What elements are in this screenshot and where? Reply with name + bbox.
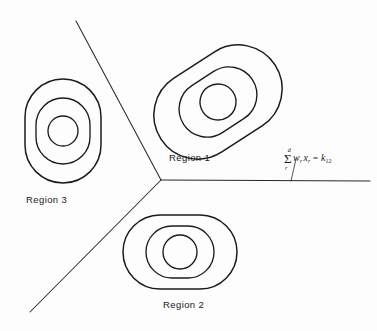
weight-symbol: w	[293, 152, 300, 163]
summation-block: d Σ r	[284, 147, 292, 171]
region-3-label: Region 3	[26, 194, 67, 205]
constant-subscript: 12	[325, 158, 331, 164]
constant-term: k12	[321, 153, 331, 163]
region-2-label: Region 2	[163, 299, 204, 310]
region-1-label: Region 1	[169, 152, 210, 163]
sigma-icon: Σ	[284, 153, 292, 165]
weight-subscript: r	[300, 158, 302, 164]
variable-term: xr	[304, 153, 311, 163]
hyperplane-equation-annotation: d Σ r wrxr=k12	[284, 146, 331, 170]
equals-sign: =	[313, 154, 318, 163]
weight-term: wr	[293, 153, 302, 163]
variable-subscript: r	[308, 158, 310, 164]
